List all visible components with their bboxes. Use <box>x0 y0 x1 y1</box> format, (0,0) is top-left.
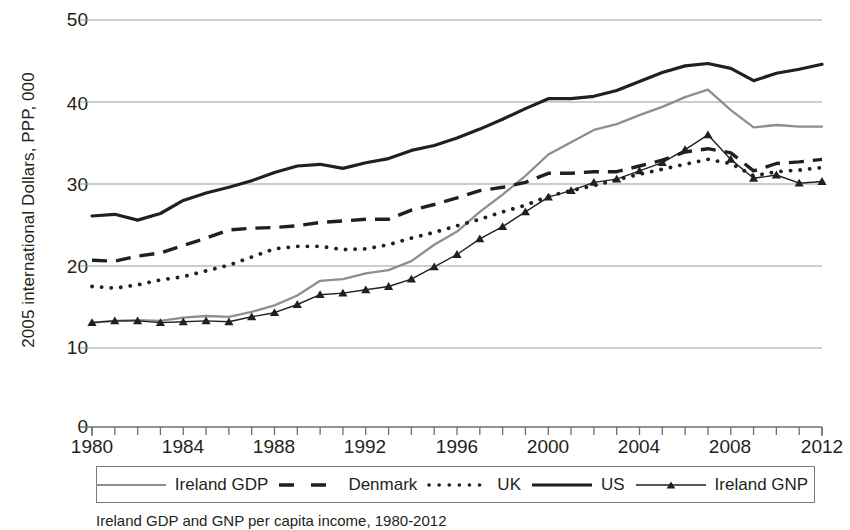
legend-item-uk[interactable]: UK <box>426 467 530 502</box>
legend-label-denmark: Denmark <box>341 475 426 495</box>
legend-label-ireland-gnp: Ireland GNP <box>708 475 818 495</box>
chart-legend: Ireland GDP Denmark UK US Ireland G <box>96 466 815 503</box>
chart-figure: 2005 international Dollars, PPP, 000 50 … <box>0 0 850 530</box>
legend-swatch-ireland-gnp <box>634 478 708 492</box>
legend-swatch-denmark <box>277 478 341 492</box>
legend-item-denmark[interactable]: Denmark <box>277 467 426 502</box>
figure-caption: Ireland GDP and GNP per capita income, 1… <box>96 512 836 529</box>
legend-label-uk: UK <box>490 475 530 495</box>
legend-item-ireland-gdp[interactable]: Ireland GDP <box>94 467 278 502</box>
legend-label-us: US <box>594 475 634 495</box>
legend-swatch-ireland-gdp <box>94 478 168 492</box>
legend-item-ireland-gnp[interactable]: Ireland GNP <box>634 467 818 502</box>
legend-item-us[interactable]: US <box>530 467 634 502</box>
plot-area <box>0 0 850 530</box>
legend-swatch-us <box>530 478 594 492</box>
legend-swatch-uk <box>426 478 490 492</box>
legend-label-ireland-gdp: Ireland GDP <box>168 475 278 495</box>
